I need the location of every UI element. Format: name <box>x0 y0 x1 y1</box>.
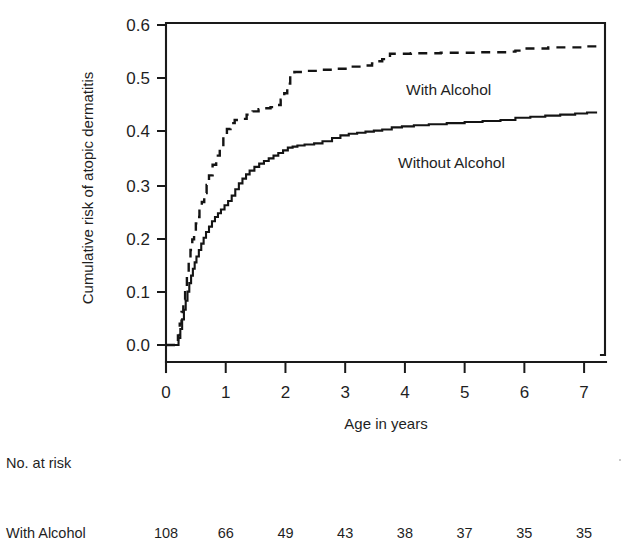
y-axis-tick-labels: 0.6 0.5 0.4 0.3 0.2 0.1 0.0 <box>126 16 150 355</box>
y-tick-label: 0.6 <box>126 16 150 35</box>
x-tick-label: 5 <box>460 383 469 402</box>
y-tick-label: 0.1 <box>126 283 150 302</box>
x-axis-title: Age in years <box>344 415 427 432</box>
x-tick-label: 2 <box>281 383 290 402</box>
annotation-without-alcohol: Without Alcohol <box>398 154 505 171</box>
risk-table-row: With Alcohol 10866494338373535 <box>0 525 633 549</box>
y-tick-label: 0.3 <box>126 177 150 196</box>
scan-speck <box>619 459 621 461</box>
risk-value: 35 <box>564 525 604 541</box>
y-tick-label: 0.0 <box>126 336 150 355</box>
x-tick-label: 1 <box>221 383 230 402</box>
x-tick-label: 4 <box>400 383 409 402</box>
risk-table-heading: No. at risk <box>6 455 71 471</box>
plot-frame <box>166 23 605 355</box>
x-tick-label: 0 <box>161 383 170 402</box>
x-tick-label: 3 <box>340 383 349 402</box>
y-axis-title: Cumulative risk of atopic dermatitis <box>79 72 96 305</box>
risk-value: 108 <box>146 525 186 541</box>
risk-value: 38 <box>385 525 425 541</box>
x-axis-tick-labels: 01234567 <box>161 383 589 402</box>
risk-value: 66 <box>206 525 246 541</box>
x-axis-ticks <box>166 362 584 373</box>
y-tick-label: 0.4 <box>126 122 150 141</box>
annotation-with-alcohol: With Alcohol <box>406 81 491 98</box>
risk-row-label: With Alcohol <box>6 525 86 541</box>
cumulative-risk-chart: 0.6 0.5 0.4 0.3 0.2 0.1 0.0 01234567 Cum… <box>0 0 633 455</box>
x-tick-label: 7 <box>579 383 588 402</box>
x-tick-label: 6 <box>520 383 529 402</box>
risk-value: 43 <box>325 525 365 541</box>
series-without-alcohol-line <box>166 111 596 345</box>
risk-value: 35 <box>504 525 544 541</box>
y-tick-label: 0.2 <box>126 230 150 249</box>
y-tick-label: 0.5 <box>126 69 150 88</box>
risk-value: 37 <box>445 525 485 541</box>
figure-root: 0.6 0.5 0.4 0.3 0.2 0.1 0.0 01234567 Cum… <box>0 0 633 549</box>
risk-value: 49 <box>265 525 305 541</box>
